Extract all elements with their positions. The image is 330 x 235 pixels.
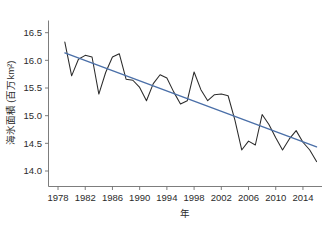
x-tick-label: 2002: [211, 192, 232, 203]
x-tick-label: 1990: [129, 192, 150, 203]
y-tick-label: 15.0: [24, 110, 43, 121]
linear-trend-line: [65, 53, 317, 147]
x-tick-label: 1978: [47, 192, 68, 203]
y-tick-label: 14.0: [24, 165, 43, 176]
y-axis-title: 海氷面積 (百万km²): [5, 61, 16, 146]
x-axis-title: 年: [180, 208, 190, 219]
y-tick-label: 16.0: [24, 55, 43, 66]
x-tick-label: 1998: [184, 192, 205, 203]
x-tick-label: 2006: [238, 192, 259, 203]
y-tick-label: 15.5: [24, 82, 43, 93]
x-tick-label: 1982: [75, 192, 96, 203]
y-tick-label: 14.5: [24, 138, 43, 149]
x-tick-label: 2014: [292, 192, 313, 203]
x-tick-label: 2010: [265, 192, 286, 203]
y-axis-ticks: 14.014.515.015.516.016.5: [24, 27, 49, 176]
y-tick-label: 16.5: [24, 27, 43, 38]
x-tick-label: 1994: [156, 192, 177, 203]
axes: [49, 21, 323, 187]
sea-ice-extent-chart: 14.014.515.015.516.016.5 197819821986199…: [0, 0, 330, 235]
x-axis-ticks: 1978198219861990199419982002200620102014: [47, 187, 313, 203]
sea-ice-extent-line: [65, 42, 317, 162]
x-tick-label: 1986: [102, 192, 123, 203]
chart-canvas: 14.014.515.015.516.016.5 197819821986199…: [0, 0, 330, 235]
data-series-group: [65, 42, 317, 162]
